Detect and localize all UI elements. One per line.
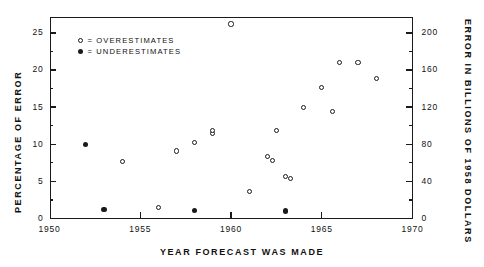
y-axis-right-title: ERROR IN BILLIONS OF 1958 DOLLARS — [463, 19, 472, 244]
scatter-chart: 0510152025 04080120160200 19501955196019… — [0, 0, 484, 267]
x-tick-label: 1965 — [302, 225, 342, 234]
y-right-tick-major — [406, 106, 413, 107]
x-tick-label: 1955 — [120, 225, 160, 234]
y-tick-minor — [50, 125, 54, 126]
x-tick-major — [230, 212, 231, 219]
legend-label-overestimates: = OVERESTIMATES — [88, 37, 175, 45]
y-right-tick-major — [406, 69, 413, 70]
filled-circle-icon — [78, 49, 83, 54]
open-circle-icon — [78, 38, 83, 43]
y-right-tick-label: 200 — [422, 28, 450, 37]
y-right-tick-minor — [409, 51, 413, 52]
y-right-tick-minor — [409, 199, 413, 200]
x-axis-title: YEAR FORECAST WAS MADE — [0, 248, 484, 257]
y-tick-minor — [50, 162, 54, 163]
y-tick-major — [50, 144, 57, 145]
x-tick-label: 1950 — [30, 225, 70, 234]
y-right-tick-label: 120 — [422, 103, 450, 112]
y-right-tick-minor — [409, 88, 413, 89]
data-point-overestimate — [120, 159, 125, 164]
x-tick-major — [140, 212, 141, 219]
y-right-tick-label: 80 — [422, 140, 450, 149]
y-right-tick-minor — [409, 162, 413, 163]
y-right-tick-major — [406, 181, 413, 182]
data-point-overestimate — [355, 60, 360, 65]
y-right-tick-major — [406, 32, 413, 33]
y-tick-major — [50, 181, 57, 182]
y-right-tick-label: 40 — [422, 177, 450, 186]
y-right-tick-label: 0 — [422, 214, 450, 223]
y-tick-label: 0 — [14, 214, 44, 223]
x-tick-label: 1960 — [211, 225, 251, 234]
legend-label-underestimates: = UNDERESTIMATES — [88, 48, 182, 56]
y-tick-major — [50, 218, 57, 219]
x-tick-label: 1970 — [393, 225, 433, 234]
data-point-overestimate — [301, 105, 306, 110]
x-tick-major — [321, 212, 322, 219]
data-point-overestimate — [156, 205, 161, 210]
y-tick-major — [50, 32, 57, 33]
y-tick-minor — [50, 199, 54, 200]
data-point-underestimate — [283, 208, 288, 213]
data-point-overestimate — [174, 148, 179, 153]
y-right-tick-major — [406, 144, 413, 145]
y-right-tick-minor — [409, 125, 413, 126]
y-right-tick-major — [406, 218, 413, 219]
y-right-tick-label: 160 — [422, 65, 450, 74]
y-tick-minor — [50, 51, 54, 52]
y-axis-left-title: PERCENTAGE OF ERROR — [14, 70, 23, 212]
data-point-underestimate — [101, 207, 106, 212]
y-tick-minor — [50, 88, 54, 89]
y-tick-major — [50, 69, 57, 70]
y-tick-label: 25 — [14, 28, 44, 37]
data-point-overestimate — [228, 21, 233, 26]
y-tick-major — [50, 106, 57, 107]
